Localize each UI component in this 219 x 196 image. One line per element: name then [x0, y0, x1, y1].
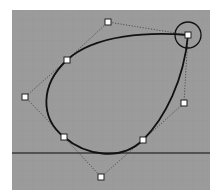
grid: [12, 10, 210, 190]
control-vertex-left[interactable]: [22, 94, 28, 100]
control-vertex-upper-left-knot[interactable]: [64, 57, 70, 63]
control-vertex-top[interactable]: [105, 19, 111, 25]
control-vertex-bottom[interactable]: [98, 174, 104, 180]
control-vertex-right[interactable]: [181, 100, 187, 106]
curve-canvas[interactable]: [0, 0, 219, 196]
control-vertex-top-right-selected[interactable]: [185, 32, 191, 38]
control-vertex-lower-left-knot[interactable]: [61, 134, 67, 140]
control-vertex-lower-right-knot[interactable]: [140, 137, 146, 143]
